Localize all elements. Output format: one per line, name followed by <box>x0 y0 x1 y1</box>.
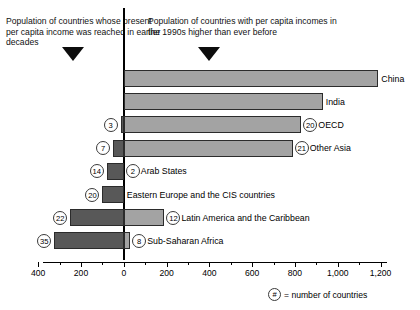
axis-tick-label: 800 <box>288 268 302 278</box>
region-label: India <box>326 97 345 107</box>
axis-tick-label: 200 <box>159 268 173 278</box>
axis-tick-major <box>209 262 210 267</box>
footnote-text: = number of countries <box>284 290 367 300</box>
country-count-right-badge: 21 <box>295 141 309 155</box>
axis-tick-minor <box>102 262 103 265</box>
bar-right-latin-america-and-the-caribbean <box>124 209 165 226</box>
axis-tick-label: 1,200 <box>370 268 392 278</box>
country-count-left-badge: 20 <box>85 188 99 202</box>
axis-tick-major <box>38 262 39 267</box>
bar-left-sub-saharan-africa <box>54 232 124 249</box>
axis-tick-major <box>124 262 125 267</box>
bar-row: India <box>0 93 420 110</box>
bar-row: 721Other Asia <box>0 140 420 157</box>
country-count-right-badge: 12 <box>166 211 180 225</box>
axis-tick-minor <box>60 262 61 265</box>
country-count-right-badge: 20 <box>303 118 317 132</box>
region-label: OECD <box>318 120 343 130</box>
country-count-right-badge: 2 <box>126 164 140 178</box>
plot-area: ChinaIndia320OECD721Other Asia142Arab St… <box>0 0 420 310</box>
axis-tick-minor <box>316 262 317 265</box>
hash-badge-icon: # <box>268 288 281 301</box>
legend-footnote: # = number of countries <box>268 288 367 301</box>
bar-row: 358Sub-Saharan Africa <box>0 232 420 249</box>
bar-right-sub-saharan-africa <box>124 232 130 249</box>
country-count-right-badge: 8 <box>132 234 146 248</box>
axis-tick-minor <box>188 262 189 265</box>
axis-tick-label: 1,000 <box>327 268 349 278</box>
region-label: China <box>381 74 404 84</box>
bar-right-other-asia <box>124 140 293 157</box>
axis-tick-label: 600 <box>245 268 259 278</box>
country-count-left-badge: 7 <box>96 141 110 155</box>
bar-right-china <box>124 70 379 87</box>
axis-tick-minor <box>145 262 146 265</box>
country-count-left-badge: 22 <box>53 211 67 225</box>
country-count-left-badge: 14 <box>90 164 104 178</box>
region-label: Other Asia <box>310 143 351 153</box>
x-axis-line <box>43 262 387 263</box>
axis-tick-minor <box>359 262 360 265</box>
bar-row: 2212Latin America and the Caribbean <box>0 209 420 226</box>
axis-tick-label: 400 <box>31 268 45 278</box>
axis-tick-major <box>295 262 296 267</box>
bar-row: 320OECD <box>0 116 420 133</box>
population-income-chart: Population of countries whose present pe… <box>0 0 420 310</box>
country-count-left-badge: 35 <box>37 234 51 248</box>
region-label: Eastern Europe and the CIS countries <box>127 190 275 200</box>
axis-tick-major <box>338 262 339 267</box>
axis-tick-label: 200 <box>74 268 88 278</box>
axis-tick-major <box>381 262 382 267</box>
axis-tick-major <box>81 262 82 267</box>
region-label: Arab States <box>141 166 187 176</box>
region-label: Sub-Saharan Africa <box>147 236 223 246</box>
axis-tick-minor <box>274 262 275 265</box>
bar-row: 20Eastern Europe and the CIS countries <box>0 186 420 203</box>
country-count-left-badge: 3 <box>104 118 118 132</box>
axis-tick-label: 0 <box>121 268 126 278</box>
axis-tick-major <box>167 262 168 267</box>
bar-left-eastern-europe-and-the-cis-countries <box>102 186 123 203</box>
axis-tick-label: 400 <box>202 268 216 278</box>
bar-left-other-asia <box>113 140 124 157</box>
axis-tick-minor <box>231 262 232 265</box>
region-label: Latin America and the Caribbean <box>181 213 309 223</box>
bar-left-latin-america-and-the-caribbean <box>70 209 123 226</box>
axis-tick-major <box>252 262 253 267</box>
bar-left-arab-states <box>107 163 124 180</box>
bar-right-india <box>124 93 323 110</box>
bar-row: 142Arab States <box>0 163 420 180</box>
bar-right-oecd <box>124 116 302 133</box>
bar-row: China <box>0 70 420 87</box>
